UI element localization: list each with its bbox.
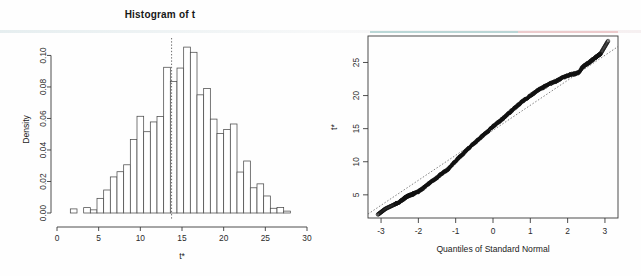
x-tick-label: -3 <box>377 226 385 236</box>
histogram-bar <box>284 211 291 213</box>
histogram-title: Histogram of t <box>0 9 320 20</box>
histogram-bar <box>250 188 257 213</box>
x-tick-label: 2 <box>565 226 570 236</box>
histogram-bar <box>177 68 184 213</box>
histogram-bar <box>70 209 77 213</box>
y-tick-label: 5 <box>351 192 361 197</box>
x-tick-label: 20 <box>219 233 229 243</box>
x-tick-label: 3 <box>603 226 608 236</box>
y-tick-label: 0.04 <box>38 141 48 158</box>
histogram-bar <box>144 132 151 213</box>
y-tick-label: 0.10 <box>38 47 48 64</box>
y-tick-label: 25 <box>351 57 361 67</box>
x-axis-title: t* <box>179 251 185 261</box>
qq-points <box>376 39 610 216</box>
histogram-bar <box>257 184 264 213</box>
histogram-bars <box>70 47 290 213</box>
qqplot-canvas: 510152025t*-3-2-10123Quantiles of Standa… <box>320 0 641 276</box>
x-tick-label: -2 <box>415 226 423 236</box>
x-tick-label: 10 <box>136 233 146 243</box>
histogram-x-axis: 051015202530t* <box>55 227 312 261</box>
screenshot-page: Histogram of t 0.000.020.040.060.080.10D… <box>0 0 641 276</box>
histogram-bar <box>157 117 164 213</box>
y-tick-label: 10 <box>351 157 361 167</box>
histogram-bar <box>117 172 124 213</box>
histogram-bar <box>124 165 131 213</box>
histogram-bar <box>130 140 137 213</box>
x-tick-label: -1 <box>452 226 460 236</box>
histogram-bar <box>210 119 217 213</box>
x-tick-label: 25 <box>261 233 271 243</box>
histogram-bar <box>104 190 111 213</box>
x-tick-label: 0 <box>55 233 60 243</box>
histogram-bar <box>90 210 97 213</box>
histogram-bar <box>264 196 271 213</box>
y-axis-title: Density <box>21 114 31 143</box>
y-tick-label: 0.08 <box>38 78 48 95</box>
y-tick-label: 0.00 <box>38 205 48 222</box>
x-tick-label: 5 <box>96 233 101 243</box>
y-tick-label: 20 <box>351 91 361 101</box>
qqplot-x-axis: -3-2-10123Quantiles of Standard Normal <box>377 218 607 254</box>
y-tick-label: 0.06 <box>38 110 48 127</box>
histogram-bar <box>224 130 231 214</box>
y-tick-label: 0.02 <box>38 173 48 190</box>
histogram-panel: Histogram of t 0.000.020.040.060.080.10D… <box>0 0 320 276</box>
histogram-bar <box>184 47 191 213</box>
x-tick-label: 0 <box>491 226 496 236</box>
histogram-bar <box>217 133 224 213</box>
histogram-bar <box>244 161 251 213</box>
histogram-bar <box>197 95 204 213</box>
x-tick-label: 15 <box>177 233 187 243</box>
x-tick-label: 1 <box>528 226 533 236</box>
x-axis-title: Quantiles of Standard Normal <box>436 244 549 254</box>
histogram-bar <box>190 52 197 213</box>
histogram-bar <box>230 124 237 213</box>
histogram-canvas: 0.000.020.040.060.080.10Density051015202… <box>0 0 320 276</box>
y-axis-title: t* <box>329 123 339 129</box>
histogram-bar <box>84 208 91 213</box>
qqplot-panel: 510152025t*-3-2-10123Quantiles of Standa… <box>320 0 641 276</box>
x-tick-label: 30 <box>302 233 312 243</box>
histogram-y-axis: 0.000.020.040.060.080.10Density <box>21 47 51 221</box>
histogram-bar <box>277 207 284 213</box>
y-tick-label: 15 <box>351 124 361 134</box>
qqplot-y-axis: 510152025t* <box>329 57 368 197</box>
histogram-bar <box>204 89 211 213</box>
histogram-bar <box>97 198 104 213</box>
histogram-bar <box>137 116 144 213</box>
histogram-bar <box>164 67 171 213</box>
histogram-bar <box>237 172 244 213</box>
histogram-bar <box>150 122 157 213</box>
histogram-bar <box>110 177 117 213</box>
histogram-bar <box>270 208 277 213</box>
